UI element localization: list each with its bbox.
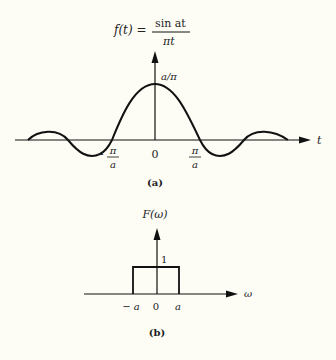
- caption-b: (b): [149, 327, 165, 338]
- figure-a: f(t) = sin at πt a/π t − π a 0 π a (a): [15, 17, 322, 188]
- y-axis-label: F(ω): [141, 208, 167, 221]
- sinc-curve: [28, 84, 288, 156]
- x-axis-label: ω: [244, 288, 252, 299]
- height-label: 1: [161, 254, 167, 265]
- rect-pulse: [133, 267, 179, 294]
- x-axis-arrow-icon: [299, 137, 311, 144]
- y-axis-arrow-icon: [154, 228, 161, 240]
- figure-b: F(ω) 1 ω − a 0 a (b): [84, 208, 252, 338]
- tick-pos-den: a: [192, 159, 198, 170]
- tick-zero: 0: [153, 301, 159, 312]
- x-axis-arrow-icon: [226, 291, 238, 298]
- formula-numerator: sin at: [155, 17, 186, 30]
- figure: f(t) = sin at πt a/π t − π a 0 π a (a) F…: [0, 0, 336, 360]
- tick-neg-num: π: [109, 145, 117, 156]
- peak-label: a/π: [161, 71, 177, 82]
- tick-neg-sign: −: [95, 148, 104, 161]
- tick-pos-a: a: [175, 301, 181, 312]
- tick-neg-den: a: [110, 159, 116, 170]
- tick-pos-num: π: [191, 145, 199, 156]
- y-axis-arrow-icon: [152, 51, 159, 63]
- formula-lhs: f(t) =: [113, 23, 147, 37]
- formula-denominator: πt: [162, 35, 175, 48]
- tick-neg-a: − a: [122, 301, 140, 312]
- x-axis-label: t: [317, 134, 322, 147]
- tick-zero: 0: [152, 148, 159, 161]
- caption-a: (a): [147, 177, 163, 188]
